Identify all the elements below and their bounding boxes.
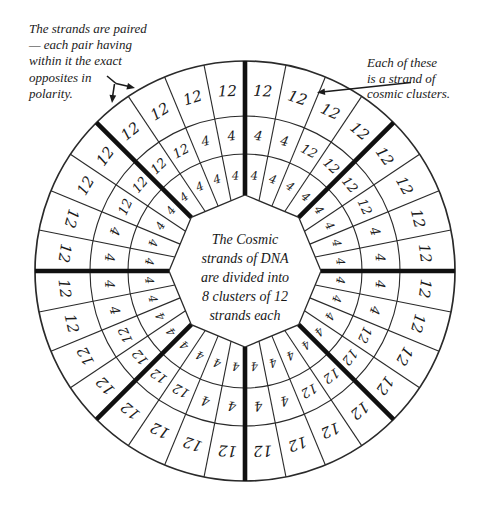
center-label-line: strands of DNA: [165, 249, 325, 268]
annotation-line: opposites in: [29, 70, 147, 86]
cell-value-outer: 12: [147, 418, 172, 442]
cell-value-outer: 12: [392, 173, 417, 198]
cell-value-outer: 12: [73, 173, 98, 199]
cell-value-outer: 12: [73, 344, 98, 369]
cell-value-middle: 12: [355, 324, 375, 345]
annotation-line: — each pair having: [29, 37, 147, 53]
cell-value-middle: 4: [253, 398, 264, 414]
cell-value-inner: 4: [283, 178, 297, 194]
cell-value-inner: 4: [266, 171, 278, 187]
annotation-line: cosmic clusters.: [367, 86, 450, 102]
cell-value-middle: 4: [373, 279, 388, 289]
center-label-line: 8 clusters of 12: [165, 287, 325, 306]
cell-value-middle: 4: [199, 133, 211, 150]
cell-value-inner: 4: [329, 237, 345, 249]
cell-value-middle: 12: [339, 346, 361, 368]
cell-value-inner: 4: [142, 256, 157, 266]
cell-value-inner: 4: [211, 171, 223, 187]
cell-value-middle: 12: [298, 141, 320, 162]
center-label: The Cosmic strands of DNA are divided in…: [165, 230, 325, 325]
cell-value-middle: 4: [279, 393, 292, 410]
cell-value-middle: 4: [372, 252, 388, 262]
cell-value-outer: 12: [392, 343, 417, 368]
cell-value-inner: 4: [193, 178, 206, 194]
cell-value-outer: 12: [181, 432, 205, 455]
cell-value-middle: 12: [115, 196, 136, 217]
cell-value-inner: 4: [329, 293, 345, 304]
cell-value-outer: 12: [318, 418, 343, 442]
cell-value-outer: 12: [218, 82, 238, 101]
cell-value-outer: 12: [372, 373, 398, 399]
cell-value-inner: 4: [267, 355, 279, 371]
annotation-line: Each of these: [367, 55, 450, 71]
cell-value-middle: 12: [355, 196, 376, 217]
cell-value-inner: 4: [145, 237, 161, 248]
cell-value-middle: 4: [200, 393, 213, 410]
cell-value-inner: 4: [333, 256, 348, 266]
cell-value-inner: 4: [250, 359, 259, 373]
cell-value-middle: 4: [102, 252, 118, 262]
cell-value-middle: 4: [227, 398, 238, 414]
cell-value-inner: 4: [284, 347, 297, 363]
cell-value-inner: 4: [145, 293, 161, 304]
cell-value-outer: 12: [147, 99, 173, 124]
cell-value-outer: 12: [181, 87, 205, 110]
cell-value-outer: 12: [60, 207, 82, 230]
cell-value-inner: 4: [250, 168, 259, 182]
annotation-line: within it the exact: [29, 53, 147, 69]
annotation-line: is a strand of: [367, 71, 450, 87]
cell-value-outer: 12: [92, 143, 118, 169]
cell-value-middle: 12: [115, 324, 135, 345]
diagram-canvas: 4412441241212412124121241212441244124412…: [0, 0, 479, 512]
cell-value-middle: 4: [106, 224, 123, 238]
cell-value-inner: 4: [211, 355, 223, 371]
cell-value-middle: 12: [320, 365, 342, 387]
cell-value-middle: 12: [298, 380, 320, 401]
cell-value-outer: 12: [253, 441, 273, 460]
cell-value-outer: 12: [117, 118, 143, 144]
cell-value-outer: 12: [318, 100, 343, 124]
cell-value-inner: 4: [194, 348, 207, 364]
cell-value-inner: 4: [231, 168, 240, 182]
center-label-line: are divided into: [165, 268, 325, 287]
cell-value-outer: 12: [54, 242, 75, 264]
annotation-strand-of-clusters: Each of these is a strand of cosmic clus…: [367, 55, 450, 102]
cell-value-middle: 12: [170, 141, 192, 162]
cell-value-middle: 12: [129, 346, 151, 368]
cell-value-outer: 12: [286, 87, 310, 110]
cell-value-outer: 12: [55, 278, 75, 299]
cell-value-outer: 12: [372, 143, 398, 169]
center-label-line: strands each: [165, 306, 325, 325]
cell-value-middle: 4: [102, 279, 117, 289]
cell-value-middle: 12: [148, 365, 170, 387]
cell-value-middle: 12: [170, 380, 192, 401]
cell-value-middle: 4: [106, 303, 123, 316]
cell-value-middle: 4: [226, 128, 237, 144]
cell-value-outer: 12: [347, 398, 373, 424]
cell-value-inner: 4: [142, 275, 157, 285]
cell-value-outer: 12: [253, 82, 273, 101]
cell-value-outer: 12: [347, 118, 373, 144]
cell-value-middle: 4: [366, 224, 383, 238]
annotation-strands-paired: The strands are paired — each pair havin…: [29, 21, 147, 102]
annotation-line: The strands are paired: [29, 21, 147, 37]
cell-value-outer: 12: [286, 432, 310, 455]
cell-value-outer: 12: [117, 398, 143, 424]
cell-value-inner: 4: [232, 359, 241, 373]
cell-value-outer: 12: [415, 243, 435, 264]
center-label-line: The Cosmic: [165, 230, 325, 249]
cell-value-outer: 12: [407, 312, 429, 335]
cell-value-outer: 12: [92, 373, 118, 399]
annotation-line: polarity.: [29, 86, 147, 102]
cell-value-outer: 12: [415, 278, 435, 299]
cell-value-outer: 12: [217, 441, 237, 460]
cell-value-outer: 12: [61, 312, 83, 335]
cell-value-middle: 4: [252, 128, 263, 144]
cell-value-inner: 4: [333, 275, 348, 285]
cell-value-middle: 4: [278, 132, 290, 149]
cell-value-middle: 4: [367, 303, 384, 316]
cell-value-outer: 12: [407, 207, 429, 230]
